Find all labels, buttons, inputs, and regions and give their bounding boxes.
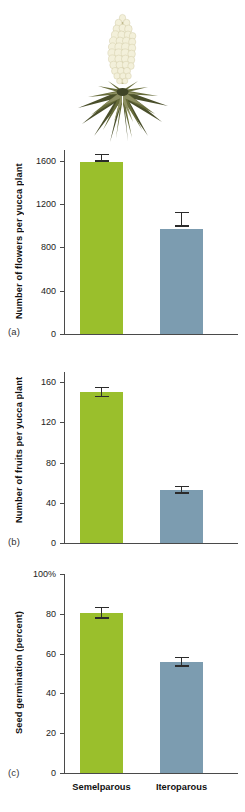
- panel-b-tick-160: [60, 382, 64, 383]
- panel-c-tick-0: [60, 773, 64, 774]
- panel-c-errorbar-iteroparous: [175, 657, 189, 667]
- panel-c-tick-40: [60, 693, 64, 694]
- panel-a-tick-1600: [60, 161, 64, 162]
- panel-b-x-axis-line: [64, 543, 238, 544]
- panel-a-ticklabel-1200: 1200: [18, 199, 56, 209]
- panel-b-fruits: (b) Number of fruits per yucca plant 0 4…: [0, 358, 245, 558]
- panel-b-ticklabel-40: 40: [18, 498, 56, 508]
- panel-a-errorbar-iteroparous: [175, 212, 189, 227]
- panel-c-bar-semelparous[interactable]: [80, 613, 123, 773]
- panel-b-errorbar-iteroparous: [175, 486, 189, 494]
- panel-a-tick-0: [60, 334, 64, 335]
- panel-c-ticklabel-80: 80: [18, 609, 56, 619]
- panel-b-tick-0: [60, 543, 64, 544]
- panel-c-y-axis-line: [64, 574, 65, 773]
- panel-c-y-axis-title: Seed germination (percent): [14, 577, 24, 769]
- panel-a-tick-800: [60, 247, 64, 248]
- panel-a-ticklabel-0: 0: [18, 329, 56, 339]
- panel-b-y-axis-title: Number of fruits per yucca plant: [14, 364, 24, 536]
- panel-a-y-axis-line: [64, 150, 65, 334]
- panel-c-tick-20: [60, 733, 64, 734]
- panel-b-bar-semelparous[interactable]: [80, 392, 123, 543]
- panel-a-errorbar-semelparous: [95, 154, 109, 162]
- panel-c-tick-80: [60, 614, 64, 615]
- panel-a-flowers: (a) Number of flowers per yucca plant 0 …: [0, 148, 245, 353]
- panel-a-tick-400: [60, 291, 64, 292]
- panel-b-errorbar-semelparous: [95, 387, 109, 397]
- panel-b-ticklabel-120: 120: [18, 417, 56, 427]
- panel-b-tick-80: [60, 463, 64, 464]
- panel-c-tick-100: [60, 574, 64, 575]
- panel-a-tick-1200: [60, 204, 64, 205]
- panel-c-ticklabel-0: 0: [18, 768, 56, 778]
- panel-b-y-axis-line: [64, 372, 65, 543]
- panel-a-bar-semelparous[interactable]: [80, 162, 123, 334]
- panel-c-ticklabel-60: 60: [18, 649, 56, 659]
- panel-c-tick-60: [60, 654, 64, 655]
- panel-c-germination: (c) Seed germination (percent) 0 20 40 6…: [0, 565, 245, 812]
- panel-a-bar-iteroparous[interactable]: [160, 229, 203, 334]
- panel-b-ticklabel-0: 0: [18, 538, 56, 548]
- panel-c-ticklabel-40: 40: [18, 688, 56, 698]
- panel-a-ticklabel-400: 400: [18, 286, 56, 296]
- panel-c-ticklabel-20: 20: [18, 728, 56, 738]
- panel-b-plot-area: 0 40 80 120 160: [64, 372, 238, 545]
- x-axis-label-semelparous: Semelparous: [72, 782, 130, 792]
- figure-root: (a) Number of flowers per yucca plant 0 …: [0, 0, 245, 812]
- panel-c-x-axis-line: [64, 773, 238, 774]
- panel-c-ticklabel-100: 100%: [12, 569, 56, 579]
- panel-c-errorbar-semelparous: [95, 607, 109, 619]
- panel-c-plot-area: 0 20 40 60 80 100% Semelparous Iteroparo…: [64, 574, 238, 775]
- x-axis-label-iteroparous: Iteroparous: [156, 782, 207, 792]
- panel-a-plot-area: 0 400 800 1200 1600: [64, 150, 238, 336]
- panel-b-bar-iteroparous[interactable]: [160, 490, 203, 543]
- panel-a-x-axis-line: [64, 334, 238, 335]
- panel-c-bar-iteroparous[interactable]: [160, 662, 203, 773]
- panel-a-ticklabel-800: 800: [18, 242, 56, 252]
- panel-a-y-axis-title: Number of flowers per yucca plant: [14, 150, 24, 332]
- panel-b-tick-120: [60, 422, 64, 423]
- panel-b-ticklabel-80: 80: [18, 458, 56, 468]
- panel-b-tick-40: [60, 503, 64, 504]
- panel-a-ticklabel-1600: 1600: [18, 156, 56, 166]
- yucca-plant-image: [58, 2, 188, 142]
- panel-b-ticklabel-160: 160: [18, 377, 56, 387]
